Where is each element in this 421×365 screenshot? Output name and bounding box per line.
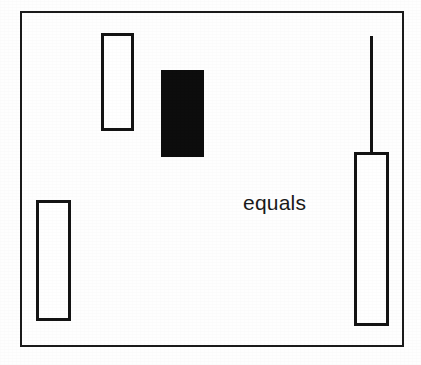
stem-line-right (370, 36, 373, 153)
bar-center-filled (161, 70, 204, 157)
bar-top-left (101, 33, 134, 131)
bar-bottom-left (36, 200, 71, 321)
outer-frame (20, 11, 404, 347)
diagram-canvas: equals (0, 0, 421, 365)
bar-right (354, 152, 389, 326)
equals-label: equals (243, 192, 306, 213)
